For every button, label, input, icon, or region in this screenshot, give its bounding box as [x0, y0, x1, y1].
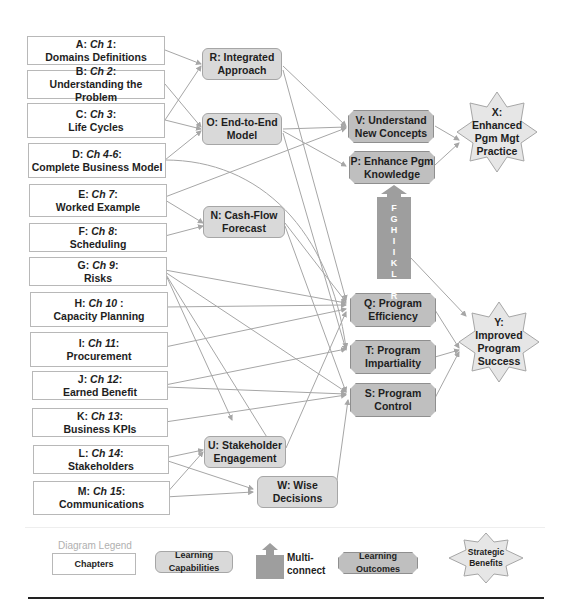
chapter-letter: K:: [77, 410, 88, 422]
legend-chapters: Chapters: [52, 553, 136, 575]
chapter-f: F: Ch 8: Scheduling: [29, 223, 167, 252]
chapter-title: Worked Example: [56, 201, 140, 214]
capability-label: N: Cash-Flow: [210, 209, 277, 222]
chapter-number: Ch 3: [90, 108, 113, 120]
chapter-title: Procurement: [67, 350, 132, 363]
chapter-letter: C:: [76, 108, 87, 120]
benefit-x-enhanced-pgm-mgt-practice: X: Enhanced Pgm Mgt Practice: [455, 90, 539, 174]
outcome-label: P: Enhance Pgm: [351, 155, 434, 168]
outcome-v-understand-new-concepts: V: Understand New Concepts: [348, 110, 434, 143]
capability-label: Approach: [217, 64, 266, 77]
chapter-letter: G:: [78, 259, 90, 271]
outcome-s-program-control: S: Program Control: [350, 383, 436, 417]
legend-learning-capabilities: Learning Capabilities: [155, 551, 233, 573]
outcome-p-enhance-pgm-knowledge: P: Enhance Pgm Knowledge: [349, 151, 435, 184]
chapter-l: L: Ch 14: Stakeholders: [33, 445, 169, 474]
chapter-e: E: Ch 7: Worked Example: [29, 184, 167, 217]
chapter-number: Ch 12: [90, 373, 119, 385]
multiconnect-letter: L: [391, 269, 397, 280]
chapter-title: Communications: [59, 498, 144, 511]
chapter-title: Capacity Planning: [53, 310, 144, 323]
chapter-m: M: Ch 15: Communications: [33, 481, 170, 515]
chapter-title: Understanding the Problem: [28, 78, 164, 104]
benefit-label: Enhanced: [472, 119, 522, 132]
legend-separator: [25, 527, 545, 528]
capability-u-stakeholder-engagement: U: Stakeholder Engagement: [204, 436, 286, 468]
legend-label: Strategic: [468, 547, 504, 558]
chapter-k: K: Ch 13: Business KPIs: [32, 408, 168, 437]
chapter-letter: B:: [76, 65, 87, 77]
capability-label: R: Integrated: [210, 51, 275, 64]
chapter-number: Ch 7: [92, 188, 115, 200]
outcome-label: V: Understand: [355, 114, 426, 127]
capability-label: Engagement: [213, 452, 276, 465]
chapter-number: Ch 11: [88, 337, 116, 349]
chapter-a: A: Ch 1: Domains Definitions: [27, 36, 165, 65]
outcome-label: Impartiality: [365, 357, 421, 370]
benefit-label: Improved: [475, 329, 522, 342]
chapter-number: Ch 8: [91, 225, 114, 237]
legend-label: connect: [287, 564, 325, 577]
chapter-number: Ch 4-6: [86, 148, 118, 160]
benefit-label: Program: [477, 342, 520, 355]
capability-label: Forecast: [222, 222, 266, 235]
chapter-j: J: Ch 12: Earned Benefit: [32, 371, 168, 400]
chapter-g: G: Ch 9: Risks: [29, 257, 167, 286]
multiconnect-letter: F: [391, 203, 397, 214]
legend-title: Diagram Legend: [58, 540, 132, 551]
chapter-title: Earned Benefit: [63, 386, 137, 399]
chapter-title: Business KPIs: [64, 423, 137, 436]
chapter-number: Ch 2: [90, 65, 113, 77]
capability-n-cash-flow-forecast: N: Cash-Flow Forecast: [203, 206, 285, 238]
outcome-label: Control: [374, 400, 411, 413]
multiconnect-letter: I: [393, 236, 396, 247]
benefit-label: Success: [478, 355, 521, 368]
multiconnect-letter: G: [390, 214, 397, 225]
chapter-letter: F:: [78, 225, 88, 237]
outcome-label: S: Program: [365, 387, 422, 400]
chapter-title: Domains Definitions: [45, 51, 147, 64]
footer-rule: [28, 597, 544, 599]
chapter-number: Ch 1: [90, 38, 113, 50]
capability-label: W: Wise: [277, 479, 318, 492]
chapter-h: H: Ch 10 : Capacity Planning: [30, 292, 168, 327]
chapter-c: C: Ch 3: Life Cycles: [27, 103, 165, 138]
chapter-letter: L:: [79, 447, 89, 459]
chapter-number: Ch 9: [92, 259, 115, 271]
outcome-label: New Concepts: [355, 127, 427, 140]
chapter-number: Ch 15: [93, 485, 122, 497]
multiconnect-letter: R: [391, 291, 398, 302]
multiconnect-letter: H: [391, 225, 398, 236]
chapter-letter: J:: [78, 373, 87, 385]
chapter-number: Ch 14: [91, 447, 120, 459]
capability-w-wise-decisions: W: Wise Decisions: [257, 476, 338, 508]
chapter-letter: A:: [76, 38, 87, 50]
capability-r-integrated-approach: R: Integrated Approach: [202, 48, 282, 80]
legend-multiconnect-icon: [256, 543, 284, 579]
chapter-letter: I:: [79, 337, 85, 349]
outcome-label: Knowledge: [364, 168, 420, 181]
legend-label: Benefits: [469, 558, 503, 569]
chapter-number: Ch 13: [91, 410, 120, 422]
chapter-letter: M:: [78, 485, 90, 497]
multiconnect-letter: M: [390, 280, 398, 291]
capability-label: Model: [227, 129, 257, 142]
benefit-label: X:: [492, 106, 503, 119]
benefit-label: Y:: [494, 316, 504, 329]
chapter-title: Risks: [84, 272, 112, 285]
chapter-title: Life Cycles: [68, 121, 123, 134]
chapter-b: B: Ch 2: Understanding the Problem: [27, 70, 165, 99]
outcome-label: Efficiency: [368, 310, 418, 323]
chapter-title: Complete Business Model: [32, 161, 163, 174]
chapter-letter: D:: [72, 148, 83, 160]
legend-label: Chapters: [74, 558, 113, 571]
multiconnect-letter: K: [391, 258, 398, 269]
chapter-i: I: Ch 11: Procurement: [30, 332, 168, 367]
legend-strategic-benefits: Strategic Benefits: [448, 532, 524, 584]
outcome-t-program-impartiality: T: Program Impartiality: [350, 340, 436, 374]
capability-label: O: End-to-End: [206, 116, 277, 129]
benefit-y-improved-program-success: Y: Improved Program Success: [457, 300, 541, 384]
legend-label: Learning Capabilities: [156, 549, 232, 575]
outcome-label: T: Program: [366, 344, 421, 357]
chapter-title: Scheduling: [70, 238, 127, 251]
